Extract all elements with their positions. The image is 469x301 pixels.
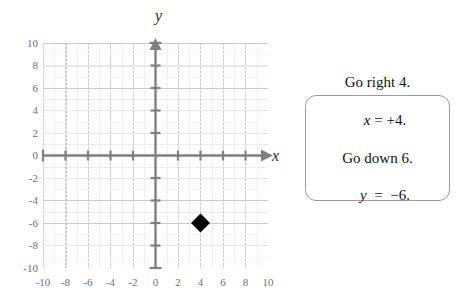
x-axis-group (43, 150, 273, 162)
callout-line-4-value: −6. (390, 187, 410, 203)
y-tick-label-neg8: -8 (6, 240, 38, 251)
y-tick-label-2: 2 (6, 128, 38, 139)
y-tick-label-10: 10 (6, 38, 38, 49)
x-tick-label-10: 10 (253, 277, 283, 288)
y-axis-group (150, 38, 162, 268)
callout-line-2-equals: = (370, 112, 386, 128)
y-tick-label-0: 0 (6, 150, 38, 161)
callout-line-3: Go down 6. (342, 149, 412, 167)
callout-line-4-equals: = (367, 187, 390, 203)
plot-area (43, 43, 268, 268)
callout-line-4-variable: y (360, 187, 367, 203)
y-tick-label-neg10: -10 (6, 263, 38, 274)
callout-line-2: x = +4. (349, 93, 406, 148)
data-point-diamond (191, 214, 210, 233)
callout-line-4: y = −6. (345, 168, 410, 223)
y-axis-label: y (155, 8, 162, 24)
coordinate-graph-panel: y x (0, 0, 290, 301)
y-tick-label-8: 8 (6, 60, 38, 71)
y-tick-label-neg6: -6 (6, 218, 38, 229)
y-tick-label-4: 4 (6, 105, 38, 116)
instruction-callout-box: Go right 4. x = +4. Go down 6. y = −6. (305, 95, 450, 201)
y-tick-label-neg2: -2 (6, 173, 38, 184)
x-axis-label: x (272, 148, 279, 164)
callout-line-1: Go right 4. (345, 73, 410, 91)
y-tick-label-6: 6 (6, 83, 38, 94)
callout-line-2-value: +4. (386, 112, 406, 128)
y-tick-label-neg4: -4 (6, 195, 38, 206)
axes-and-data-svg (43, 43, 268, 268)
